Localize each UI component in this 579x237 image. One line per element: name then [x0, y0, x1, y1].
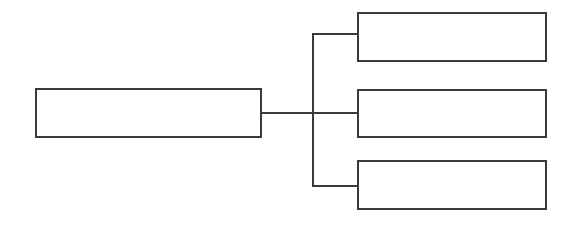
branch-connector-1 [312, 33, 359, 35]
vertical-spine [312, 33, 314, 187]
branch-connector-2 [312, 112, 359, 114]
root-connector [261, 112, 313, 114]
root-box [35, 88, 262, 138]
branch-connector-3 [312, 185, 359, 187]
child-box-1 [357, 12, 547, 62]
child-box-3 [357, 160, 547, 210]
child-box-2 [357, 89, 547, 138]
